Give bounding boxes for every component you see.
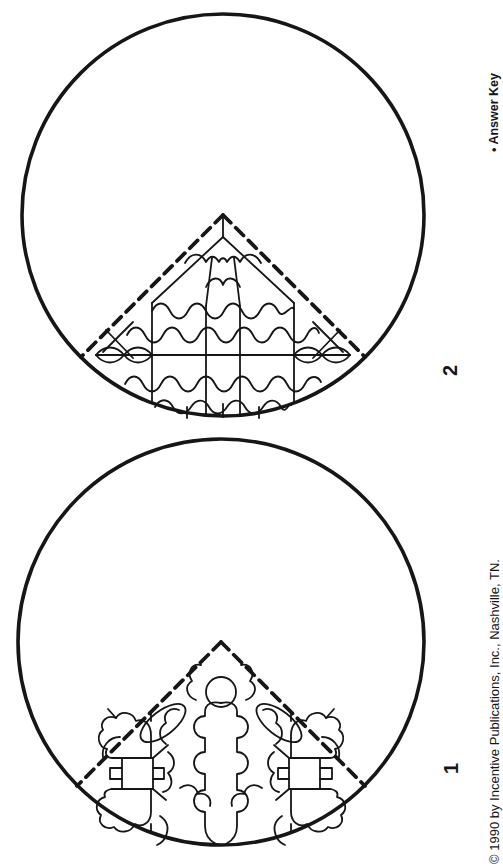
wedge-1-pattern (97, 665, 345, 845)
figure-1-label: 1 (439, 763, 463, 774)
answer-key-label: • Answer Key (487, 73, 502, 152)
figure-2-label: 2 (438, 365, 462, 376)
figure-1 (18, 439, 424, 845)
copyright-notice: © 1990 by Incentive Publications, Inc., … (487, 559, 502, 864)
wedge-2-pattern-half (96, 237, 223, 418)
wedge-1-pattern-half (97, 665, 221, 845)
figure-2 (22, 14, 424, 418)
wedge-2-pattern (96, 217, 350, 418)
